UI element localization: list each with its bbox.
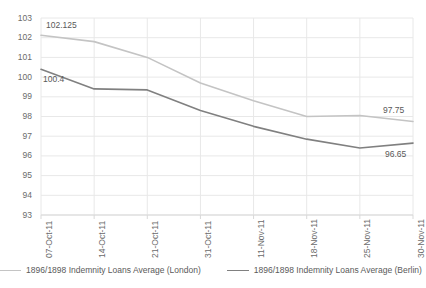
x-axis-tick-label: 31-Oct-11: [204, 221, 213, 258]
data-point-label: 102.125: [46, 21, 77, 30]
y-axis-tick-label: 93: [6, 211, 32, 220]
legend-line-swatch: [227, 270, 249, 271]
series-line: [41, 35, 413, 121]
x-axis-tick-label: 18-Nov-11: [310, 219, 319, 258]
data-series: [41, 35, 413, 148]
y-axis-tick-label: 102: [6, 33, 32, 42]
x-axis-tick-label: 07-Oct-11: [45, 221, 54, 258]
axis-ticks: [41, 215, 413, 219]
x-axis-tick-label: 30-Nov-11: [417, 219, 426, 258]
y-axis-tick-label: 103: [6, 14, 32, 23]
data-point-label: 97.75: [383, 106, 404, 115]
y-axis-tick-label: 94: [6, 191, 32, 200]
gridlines: [41, 18, 413, 215]
y-axis-tick-label: 99: [6, 92, 32, 101]
legend-line-swatch: [0, 270, 21, 271]
y-axis-tick-label: 97: [6, 132, 32, 141]
x-axis-tick-label: 14-Oct-11: [98, 221, 107, 258]
x-axis-tick-label: 25-Nov-11: [363, 219, 372, 258]
y-axis-tick-label: 100: [6, 73, 32, 82]
data-point-label: 100.4: [43, 75, 64, 84]
chart-legend: 1896/1898 Indemnity Loans Average (Londo…: [0, 266, 421, 275]
y-axis-tick-label: 96: [6, 151, 32, 160]
legend-item[interactable]: 1896/1898 Indemnity Loans Average (Berli…: [227, 266, 422, 275]
y-axis-tick-label: 101: [6, 53, 32, 62]
x-axis-tick-label: 21-Oct-11: [151, 221, 160, 258]
y-axis-tick-label: 98: [6, 112, 32, 121]
legend-item-label: 1896/1898 Indemnity Loans Average (Londo…: [26, 266, 201, 275]
x-axis-tick-label: 11-Nov-11: [257, 220, 266, 258]
y-axis-tick-label: 95: [6, 171, 32, 180]
data-point-label: 96.65: [385, 150, 406, 159]
legend-item-label: 1896/1898 Indemnity Loans Average (Berli…: [254, 266, 422, 275]
legend-item[interactable]: 1896/1898 Indemnity Loans Average (Londo…: [0, 266, 201, 275]
